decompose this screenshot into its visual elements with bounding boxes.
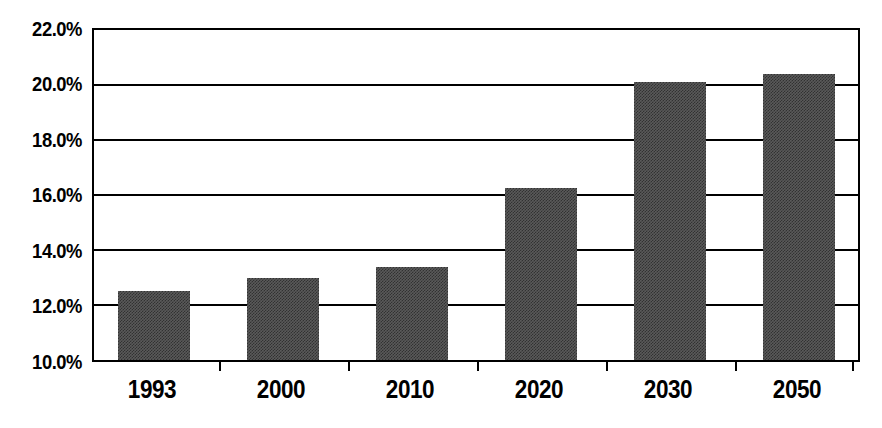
y-tick-label-22: 22.0% (7, 19, 82, 39)
x-label-1993: 1993 (107, 376, 197, 404)
x-label-2000: 2000 (236, 376, 326, 404)
bar-2050 (763, 74, 835, 360)
y-tick-label-14: 14.0% (7, 241, 82, 261)
x-tick-5 (735, 360, 737, 371)
bar-chart: 22.0% 20.0% 18.0% 16.0% 14.0% 12.0% 10.0… (0, 0, 882, 428)
x-tick-4 (606, 360, 608, 371)
x-tick-2 (348, 360, 350, 371)
x-label-2020: 2020 (494, 376, 584, 404)
bar-2000 (247, 278, 319, 361)
bar-2020 (505, 188, 577, 360)
y-axis: 22.0% 20.0% 18.0% 16.0% 14.0% 12.0% 10.0… (0, 0, 86, 428)
plot-inner (94, 30, 858, 360)
y-tick-label-18: 18.0% (7, 130, 82, 150)
bar-2030 (634, 82, 706, 360)
x-label-2030: 2030 (623, 376, 713, 404)
y-tick-label-10: 10.0% (7, 352, 82, 372)
x-tick-1 (219, 360, 221, 371)
x-label-2010: 2010 (365, 376, 455, 404)
bars-layer (94, 30, 858, 360)
y-tick-label-20: 20.0% (7, 74, 82, 94)
y-tick-label-12: 12.0% (7, 296, 82, 316)
x-axis: 1993 2000 2010 2020 2030 2050 (92, 376, 860, 420)
plot-area (92, 28, 860, 362)
bar-1993 (118, 291, 190, 360)
x-tick-6 (852, 360, 854, 371)
bar-2010 (376, 267, 448, 361)
x-label-2050: 2050 (752, 376, 842, 404)
x-axis-ticks (92, 360, 860, 372)
y-tick-label-16: 16.0% (7, 185, 82, 205)
x-tick-3 (477, 360, 479, 371)
